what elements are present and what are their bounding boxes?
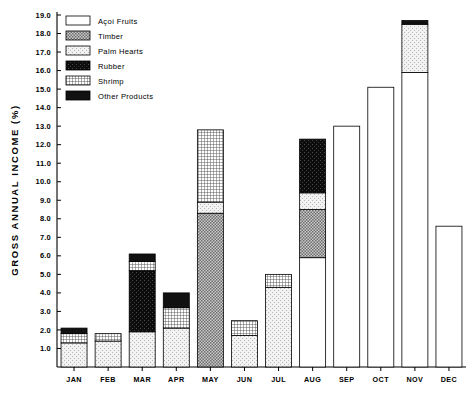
bar-segment-palm-hearts [231,336,257,367]
legend-label-other-products: Other Products [98,92,153,101]
y-tick-label: 12.0 [36,140,51,149]
bar-segment-other-products [61,328,87,334]
bar-segment-a-o-fruits [300,258,326,367]
bar-segment-palm-hearts [402,24,428,72]
y-tick-label: 17.0 [36,48,51,57]
y-tick-label: 6.0 [40,251,51,260]
y-tick-label: 2.0 [40,326,51,335]
x-axis-label-may: MAY [202,375,219,384]
stacked-bar-chart: GROSS ANNUAL INCOME (%) 1.02.03.04.05.06… [0,0,474,400]
bar-may[interactable] [197,130,223,367]
legend-swatch-rubber [66,61,90,70]
x-axis-label-mar: MAR [133,375,151,384]
x-axis-label-apr: APR [168,375,185,384]
y-tick-label: 11.0 [36,159,51,168]
legend-swatch-palm-hearts [66,46,90,55]
bar-segment-palm-hearts [266,287,292,367]
bar-segment-palm-hearts [197,202,223,213]
x-axis-label-feb: FEB [100,375,116,384]
bar-nov[interactable] [402,21,428,367]
bar-segment-a-o-fruits [334,126,360,367]
bar-segment-shrimp [266,274,292,287]
bar-group [61,21,462,367]
y-tick-label: 18.0 [36,29,51,38]
x-axis-label-jun: JUN [237,375,253,384]
bar-segment-other-products [163,293,189,308]
bar-segment-shrimp [129,261,155,270]
y-tick-label: 15.0 [36,85,51,94]
bar-segment-timber [300,210,326,258]
legend-label-palm-hearts: Palm Hearts [98,47,143,56]
bar-segment-shrimp [231,321,257,336]
y-tick-label: 7.0 [40,233,51,242]
bar-oct[interactable] [368,87,394,367]
y-tick-label: 1.0 [40,344,51,353]
chart-canvas: GROSS ANNUAL INCOME (%) 1.02.03.04.05.06… [0,0,474,400]
y-tick-label: 13.0 [36,122,51,131]
y-tick-label: 16.0 [36,66,51,75]
legend-label-a-o-fruits: Açoí Fruits [98,17,138,26]
legend-label-rubber: Rubber [98,62,125,71]
bar-segment-shrimp [163,308,189,328]
bar-segment-palm-hearts [163,328,189,367]
bar-segment-shrimp [61,334,87,343]
bar-segment-a-o-fruits [368,87,394,367]
y-tick-label: 3.0 [40,307,51,316]
bar-segment-other-products [129,254,155,261]
bar-segment-timber [197,213,223,367]
bar-jul[interactable] [266,274,292,367]
bar-segment-other-products [402,21,428,25]
bar-aug[interactable] [300,139,326,367]
bar-segment-a-o-fruits [402,72,428,367]
x-axis-labels: JANFEBMARAPRMAYJUNJULAUGSEPOCTNOVDEC [66,367,457,384]
bar-segment-rubber [300,139,326,193]
x-axis-label-aug: AUG [304,375,321,384]
legend-swatch-shrimp [66,76,90,85]
legend-label-timber: Timber [98,32,123,41]
x-axis-label-oct: OCT [373,375,390,384]
y-axis-title: GROSS ANNUAL INCOME (%) [9,104,20,275]
x-axis-label-jan: JAN [66,375,82,384]
legend-label-shrimp: Shrimp [98,77,124,86]
bar-segment-a-o-fruits [436,226,462,367]
y-tick-label: 5.0 [40,270,51,279]
y-tick-label: 8.0 [40,214,51,223]
y-tick-label: 19.0 [36,11,51,20]
legend-swatch-other-products [66,91,90,100]
bar-feb[interactable] [95,334,121,367]
bar-mar[interactable] [129,254,155,367]
x-axis-label-dec: DEC [441,375,457,384]
bar-dec[interactable] [436,226,462,367]
bar-segment-shrimp [95,334,121,341]
y-tick-label: 14.0 [36,103,51,112]
y-tick-label: 4.0 [40,288,51,297]
bar-segment-shrimp [197,130,223,202]
bar-apr[interactable] [163,293,189,367]
x-axis-label-nov: NOV [406,375,423,384]
x-axis-label-jul: JUL [271,375,286,384]
bar-segment-palm-hearts [300,193,326,210]
bar-segment-palm-hearts [129,332,155,367]
bar-jan[interactable] [61,328,87,367]
y-tick-label: 9.0 [40,196,51,205]
legend-swatch-timber [66,31,90,40]
bar-sep[interactable] [334,126,360,367]
legend-swatch-a-o-fruits [66,16,90,25]
y-tick-label: 10.0 [36,177,51,186]
y-axis-title-text: GROSS ANNUAL INCOME (%) [9,104,20,275]
bar-segment-palm-hearts [95,341,121,367]
bar-segment-rubber [129,271,155,332]
chart-legend: Açoí FruitsTimberPalm HeartsRubberShrimp… [66,16,153,101]
x-axis-label-sep: SEP [339,375,355,384]
bar-segment-palm-hearts [61,343,87,367]
bar-jun[interactable] [231,321,257,367]
